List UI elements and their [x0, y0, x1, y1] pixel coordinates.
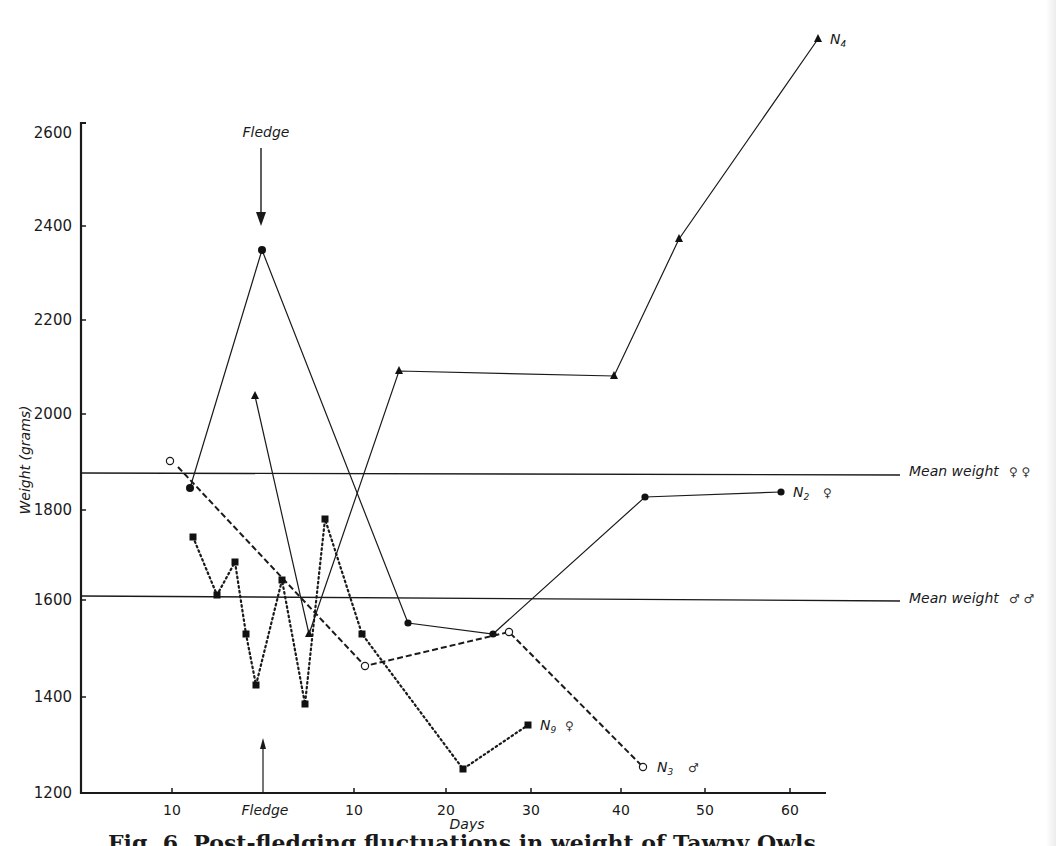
series-n4 [251, 34, 822, 637]
label-n2: N2 [793, 484, 809, 502]
mean-weight-female-label: Mean weight [909, 463, 999, 479]
ytick-2200: 2200 [34, 311, 72, 329]
label-n3-male-symbol: ♂ [688, 761, 699, 775]
ytick-1600: 1600 [34, 591, 72, 609]
mean-weight-male-line [81, 596, 900, 601]
xtick-60: 60 [781, 802, 799, 818]
xtick-40: 40 [612, 802, 630, 818]
ytick-1400: 1400 [34, 688, 72, 706]
fledge-down-arrow-icon [256, 148, 266, 226]
label-n9: N9 [540, 717, 556, 735]
label-n9-female-symbol: ♀ [565, 719, 574, 733]
y-tick-labels: 2600 2400 2200 2000 1800 1600 1400 1200 [34, 124, 72, 802]
xtick-fledge: Fledge [242, 802, 289, 818]
xtick-10: 10 [345, 802, 363, 818]
xtick-minus10: 10 [163, 802, 181, 818]
y-axis-label: Weight (grams) [17, 405, 33, 514]
weight-chart: 2600 2400 2200 2000 1800 1600 1400 1200 … [0, 0, 1056, 846]
page-edge-shadow [1046, 0, 1056, 846]
label-n2-female-symbol: ♀ [823, 486, 832, 500]
label-n4: N4 [830, 31, 846, 49]
series-n2 [186, 246, 785, 638]
series-labels: N4 N2 ♀ N9 ♀ N3 ♂ [540, 31, 846, 777]
fledge-top-label: Fledge [243, 124, 290, 140]
fledge-up-arrow-icon [260, 738, 266, 793]
ytick-2000: 2000 [34, 405, 72, 423]
xtick-50: 50 [696, 802, 714, 818]
axes [81, 123, 826, 793]
series-n9 [190, 516, 532, 773]
female-symbol-pair: ♀ ♀ [1009, 465, 1030, 479]
ytick-1800: 1800 [34, 501, 72, 519]
y-axis [81, 123, 826, 793]
ytick-2600: 2600 [34, 124, 72, 142]
ytick-2400: 2400 [34, 217, 72, 235]
ytick-1200: 1200 [34, 784, 72, 802]
male-symbol-pair: ♂ ♂ [1009, 592, 1034, 606]
mean-weight-male-label: Mean weight [909, 590, 999, 606]
label-n3: N3 [657, 759, 673, 777]
xtick-30: 30 [522, 802, 540, 818]
mean-weight-female-line [81, 473, 900, 475]
series-n3 [166, 457, 646, 770]
figure-caption: Fig. 6. Post-fledging fluctuations in we… [108, 828, 846, 846]
